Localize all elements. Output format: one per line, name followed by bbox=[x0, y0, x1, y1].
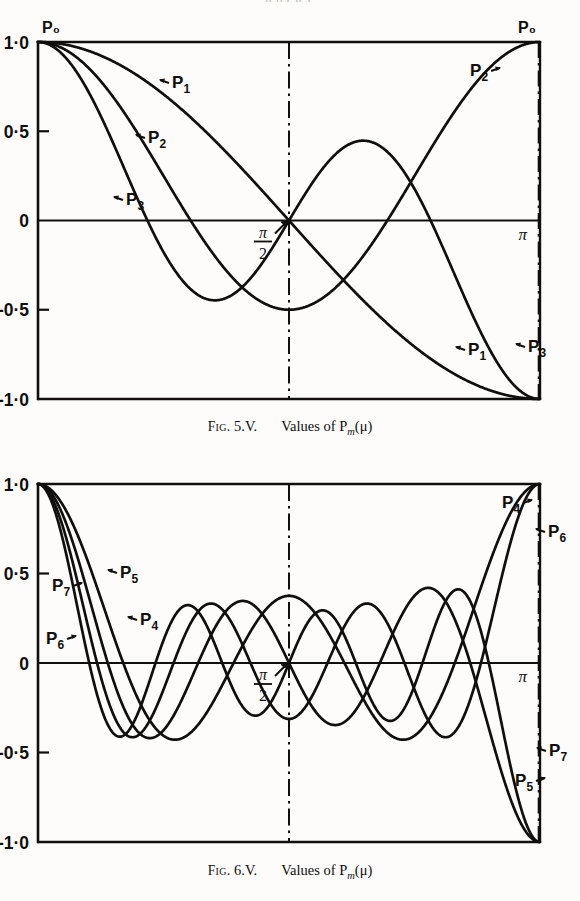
caption-number: 6.V. bbox=[234, 862, 257, 878]
curve-label-P0: P₀ bbox=[518, 19, 536, 36]
x-axis-pi-label: π bbox=[518, 667, 527, 686]
y-axis-tick-label: 0 bbox=[19, 654, 29, 674]
svg-text:P: P bbox=[549, 741, 560, 760]
svg-text:1: 1 bbox=[480, 349, 487, 363]
curve-label-P5: P5 bbox=[107, 563, 139, 586]
y-axis-tick-label: 0·5 bbox=[4, 564, 30, 584]
figure-6v: 1·00·50-0·5-1·0π2πP7P5P6P4P4P6P7P5 bbox=[0, 452, 580, 864]
y-axis-tick-label: 0 bbox=[19, 211, 29, 231]
curve-label-P0: P₀ bbox=[42, 19, 60, 36]
svg-text:P: P bbox=[528, 337, 539, 356]
caption-fig-word: Fig. bbox=[208, 863, 231, 878]
caption-text: Values of P bbox=[281, 418, 347, 434]
x-axis-pi-over-two-label: π2 bbox=[254, 224, 272, 262]
curve-label-P2: P2 bbox=[135, 128, 167, 151]
curve-label-P1: P1 bbox=[455, 340, 487, 363]
y-axis-tick-label: -1·0 bbox=[0, 390, 29, 410]
svg-text:P: P bbox=[468, 340, 479, 359]
svg-text:P: P bbox=[470, 61, 481, 80]
svg-text:P: P bbox=[120, 563, 131, 582]
svg-text:P: P bbox=[172, 73, 183, 92]
svg-text:7: 7 bbox=[64, 585, 71, 599]
curve-label-P1: P1 bbox=[159, 73, 191, 96]
figure-6v-svg: 1·00·50-0·5-1·0π2πP7P5P6P4P4P6P7P5 bbox=[0, 452, 580, 864]
svg-text:2: 2 bbox=[259, 245, 267, 262]
svg-text:P: P bbox=[502, 493, 513, 512]
svg-text:3: 3 bbox=[540, 346, 547, 360]
svg-text:5: 5 bbox=[527, 780, 534, 794]
svg-text:π: π bbox=[259, 224, 268, 241]
svg-text:P: P bbox=[140, 610, 151, 629]
caption-argument: (μ) bbox=[355, 418, 372, 434]
svg-text:P: P bbox=[52, 576, 63, 595]
curve-label-P3: P3 bbox=[113, 190, 145, 213]
curve-label-P3: P3 bbox=[515, 337, 547, 360]
cropped-running-text: g p ( g ), bbox=[0, 0, 580, 2]
y-axis-tick-label: -0·5 bbox=[0, 743, 29, 763]
svg-text:4: 4 bbox=[514, 502, 521, 516]
svg-text:P: P bbox=[126, 190, 137, 209]
figure-5v-svg: 1·00·50-0·5-1·0π2πP₀P₀P1P2P3P2P1P3 bbox=[0, 14, 580, 424]
svg-text:P: P bbox=[515, 771, 526, 790]
svg-text:3: 3 bbox=[138, 199, 145, 213]
figure-5v: 1·00·50-0·5-1·0π2πP₀P₀P1P2P3P2P1P3 bbox=[0, 14, 580, 424]
svg-text:P: P bbox=[148, 128, 159, 147]
y-axis-tick-label: -1·0 bbox=[0, 833, 29, 853]
svg-text:π: π bbox=[259, 666, 268, 683]
svg-text:6: 6 bbox=[58, 638, 65, 652]
caption-argument: (μ) bbox=[355, 862, 372, 878]
svg-text:5: 5 bbox=[132, 572, 139, 586]
y-axis-tick-label: 0·5 bbox=[4, 122, 30, 142]
caption-subscript: m bbox=[347, 870, 355, 881]
curve-label-P6: P6 bbox=[46, 629, 77, 652]
scanned-figure-page: g p ( g ), 1·00·50-0·5-1·0π2πP₀P₀P1P2P3P… bbox=[0, 0, 580, 901]
svg-text:2: 2 bbox=[482, 70, 489, 84]
y-axis-tick-label: -0·5 bbox=[0, 300, 29, 320]
curve-label-P5: P5 bbox=[515, 771, 546, 794]
figure-6v-caption: Fig. 6.V. Values of Pm(μ) bbox=[0, 862, 580, 881]
svg-text:1: 1 bbox=[184, 82, 191, 96]
svg-text:2: 2 bbox=[259, 687, 267, 704]
caption-number: 5.V. bbox=[234, 418, 257, 434]
caption-text: Values of P bbox=[281, 862, 347, 878]
svg-text:6: 6 bbox=[560, 531, 567, 545]
svg-text:4: 4 bbox=[152, 619, 159, 633]
svg-text:7: 7 bbox=[561, 750, 568, 764]
x-axis-pi-label: π bbox=[518, 225, 527, 244]
figure-5v-caption: Fig. 5.V. Values of Pm(μ) bbox=[0, 418, 580, 437]
caption-subscript: m bbox=[347, 426, 355, 437]
svg-text:P: P bbox=[46, 629, 57, 648]
svg-text:P: P bbox=[548, 522, 559, 541]
caption-fig-word: Fig. bbox=[208, 419, 231, 434]
y-axis-tick-label: 1·0 bbox=[4, 33, 30, 53]
svg-text:2: 2 bbox=[160, 137, 167, 151]
figure-6v-plot: 1·00·50-0·5-1·0π2πP7P5P6P4P4P6P7P5 bbox=[0, 452, 580, 864]
curve-label-P2: P2 bbox=[470, 61, 501, 84]
y-axis-tick-label: 1·0 bbox=[4, 475, 30, 495]
x-axis-pi-over-two-label: π2 bbox=[254, 666, 272, 704]
curve-label-P4: P4 bbox=[127, 610, 159, 633]
figure-5v-plot: 1·00·50-0·5-1·0π2πP₀P₀P1P2P3P2P1P3 bbox=[0, 14, 580, 424]
